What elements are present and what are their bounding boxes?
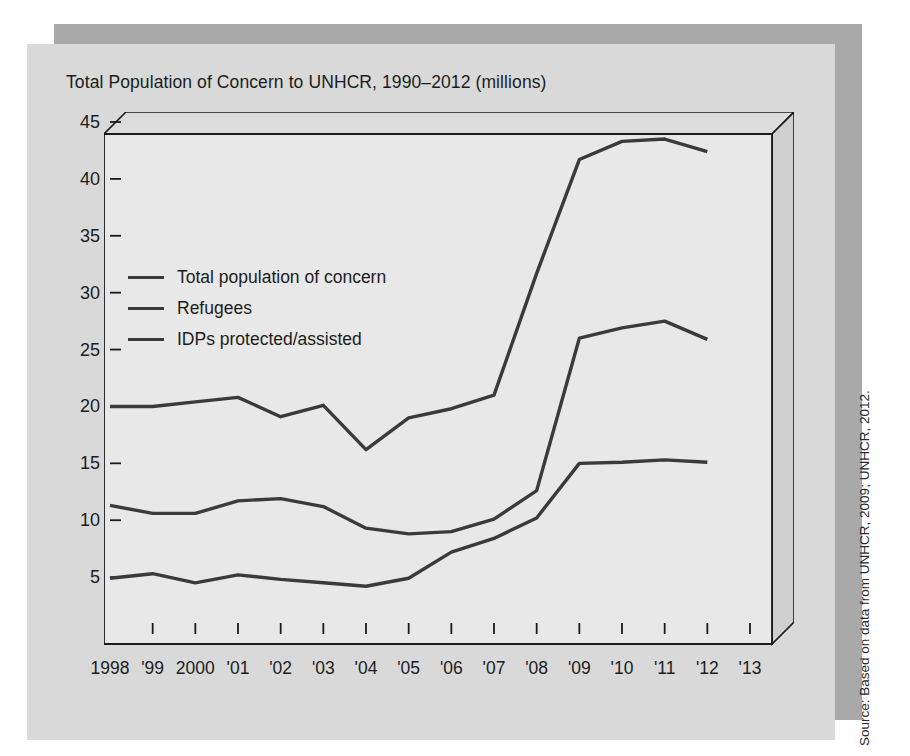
y-axis-tick-label: 15 xyxy=(56,453,100,474)
x-axis-tick-label: '07 xyxy=(483,658,506,679)
x-axis-tick-label: '11 xyxy=(654,658,676,679)
y-axis-tick-label: 35 xyxy=(56,225,100,246)
x-axis-tick-label: 2000 xyxy=(176,658,215,679)
x-axis-tick-label: '13 xyxy=(739,658,762,679)
x-axis-tick-label: '10 xyxy=(611,658,634,679)
x-axis-tick-label: '01 xyxy=(227,658,250,679)
x-axis-tick-label: '02 xyxy=(269,658,292,679)
y-axis-tick-label: 5 xyxy=(56,567,100,588)
x-axis-tick-label: '04 xyxy=(355,658,378,679)
legend-item-idps[interactable]: IDPs protected/assisted xyxy=(128,324,386,355)
y-axis-tick-label: 30 xyxy=(56,282,100,303)
legend-label-idps: IDPs protected/assisted xyxy=(177,329,362,350)
legend-line-icon xyxy=(128,338,164,341)
y-axis-tick-label: 10 xyxy=(56,510,100,531)
x-axis-tick-label: '08 xyxy=(525,658,548,679)
source-credit: Source: Based on data from UNHCR, 2009; … xyxy=(857,390,872,746)
legend-label-total: Total population of concern xyxy=(177,267,386,288)
x-axis-tick-label: '09 xyxy=(568,658,591,679)
x-axis-tick-label: '12 xyxy=(696,658,719,679)
chart-title: Total Population of Concern to UNHCR, 19… xyxy=(66,72,547,93)
y-axis-tick-label: 45 xyxy=(56,112,100,133)
series-lines xyxy=(110,139,707,586)
legend-item-total[interactable]: Total population of concern xyxy=(128,262,386,293)
chart-legend: Total population of concern Refugees IDP… xyxy=(128,262,386,355)
y-axis-tick-label: 40 xyxy=(56,168,100,189)
legend-line-icon xyxy=(128,276,164,279)
y-axis-tick-label: 20 xyxy=(56,396,100,417)
legend-label-refugees: Refugees xyxy=(177,298,252,319)
legend-item-refugees[interactable]: Refugees xyxy=(128,293,386,324)
x-axis-tick-label: '03 xyxy=(312,658,335,679)
x-axis-tick-label: 1998 xyxy=(91,658,130,679)
legend-line-icon xyxy=(128,307,164,310)
plot-area xyxy=(110,122,770,638)
x-axis-tick-label: '05 xyxy=(397,658,420,679)
x-axis-tick-label: '06 xyxy=(440,658,463,679)
y-axis-tick-label: 25 xyxy=(56,339,100,360)
x-axis-tick-label: '99 xyxy=(141,658,164,679)
figure-root: Total Population of Concern to UNHCR, 19… xyxy=(0,0,910,756)
x-axis-ticks xyxy=(153,623,750,634)
series-line-2 xyxy=(110,460,707,586)
